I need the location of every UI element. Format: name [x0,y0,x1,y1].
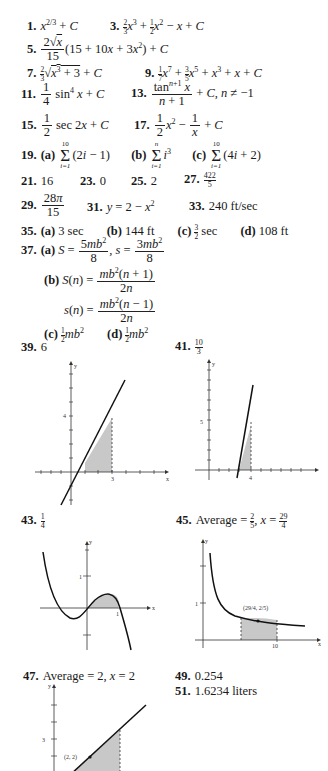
svg-text:y: y [212,361,215,367]
answer-23: 23.0 [80,175,106,188]
svg-text:(2, 2): (2, 2) [64,754,77,761]
answer-number: 15. [21,118,37,132]
svg-text:3: 3 [42,737,45,743]
answer-51: 51.1.6234 liters [175,685,257,698]
answer-49: 49.0.254 [175,670,223,683]
answer-3: 3.23x3 + 12x2 − x + C [110,19,204,35]
answer-19: 19.(a)10Σi=1(2i − 1) (b)nΣi=1i3 (c)10Σi=… [21,141,261,170]
graph-47: y 3 (2, 2) [40,685,160,771]
answer-29: 29.28π15 [21,192,65,219]
svg-text:y: y [74,363,77,369]
graph-39: y 4 3 x [30,360,170,505]
answer-41: 41.103 [175,339,203,356]
answer-21: 21.16 [21,175,53,188]
svg-text:y: y [48,683,51,689]
answer-15: 15.12 sec 2x + C [21,112,109,139]
svg-text:10: 10 [272,643,278,649]
svg-text:5: 5 [200,419,203,425]
svg-text:1: 1 [116,611,119,617]
answer-47: 47.Average = 2, x = 2 [23,670,135,683]
svg-text:4: 4 [249,475,252,481]
answer-25: 25.2 [131,175,157,188]
answer-45: 45.Average = 25, x = 294 [176,513,287,530]
answer-number: 7. [27,66,36,80]
answer-number: 1. [27,19,36,33]
answer-31: 31.y = 2 − x2 [87,200,155,214]
answer-number: 5. [27,42,36,56]
answer-number: 19. [21,148,37,162]
answer-number: 13. [131,86,147,100]
svg-text:1: 1 [195,601,198,607]
answer-11: 11.14 sin4 x + C [21,81,104,108]
svg-text:3: 3 [111,476,114,482]
graph-41: y 5 4 [195,360,325,485]
answer-13: 13.tann+1 xn + 1 + C, n ≠ −1 [131,80,254,108]
answer-37b1: (b)S(n) = mb2(n + 1)2n [44,267,156,295]
answer-37a: 37.(a)S = 5mb28, s = 3mb28 [21,237,165,265]
svg-text:y: y [205,538,208,544]
svg-text:4: 4 [63,413,66,419]
answer-37b2: s(n) = mb2(n − 1)2n [64,297,156,325]
answer-number: 17. [134,118,150,132]
answer-27: 27.4225 [184,172,216,189]
answer-number: 11. [21,87,36,101]
answer-7: 7.23√x3 + 3 + C [27,66,102,82]
graph-43: y 1 1 x [35,540,160,650]
answer-1: 1.x2/3 + C [27,19,78,33]
answer-number: 3. [110,19,119,33]
svg-text:1: 1 [79,574,82,580]
svg-text:x: x [318,641,321,647]
svg-text:x: x [166,476,169,482]
svg-text:y: y [89,539,92,545]
answer-17: 17.12x2 − 1x + C [134,112,223,139]
svg-text:x: x [152,605,155,611]
answer-number: 9. [145,66,154,80]
answer-33: 33.240 ft/sec [189,200,258,213]
answer-39: 39.6 [21,341,47,354]
answer-43: 43.14 [21,513,45,530]
answer-5: 5.2√x15(15 + 10x + 3x2) + C [27,36,168,63]
graph-45: y 1 10 (29/4, 2/5) x [195,538,325,648]
svg-text:(29/4, 2/5): (29/4, 2/5) [243,605,268,612]
answer-37cd: (c)12mb2 (d)12mb2 [44,327,148,343]
